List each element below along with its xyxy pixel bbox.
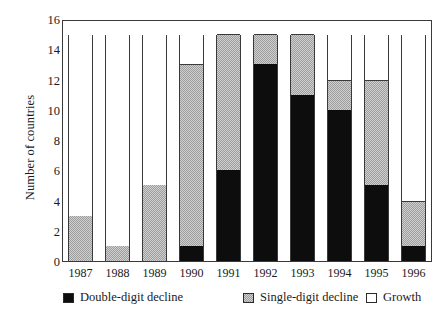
- bar-segment-single-digit-decline-1991: [217, 34, 240, 170]
- bar-segment-double-digit-decline-1991: [217, 170, 240, 261]
- bar-segment-growth-1990: [180, 34, 203, 64]
- x-tick-label-1991: 1991: [210, 266, 247, 280]
- bar-1993: [290, 35, 315, 262]
- bar-1990: [179, 35, 204, 262]
- bar-1995: [364, 35, 389, 262]
- x-tick-label-1989: 1989: [136, 266, 173, 280]
- bar-segment-double-digit-decline-1996: [402, 246, 425, 261]
- bar-segment-single-digit-decline-1988: [106, 246, 129, 261]
- bar-group-1994: [327, 20, 352, 262]
- bar-segment-growth-1995: [365, 34, 388, 79]
- bar-segment-single-digit-decline-1987: [69, 216, 92, 261]
- legend-label-0: Double-digit decline: [80, 290, 183, 305]
- y-tick-label-16: 16: [30, 14, 60, 27]
- bar-segment-growth-1996: [402, 34, 425, 200]
- x-tick-label-1990: 1990: [173, 266, 210, 280]
- double-digit-swatch: [63, 293, 74, 303]
- bar-1994: [327, 35, 352, 262]
- single-digit-swatch: [243, 293, 254, 303]
- bar-group-1988: [105, 20, 130, 262]
- bar-segment-single-digit-decline-1993: [291, 34, 314, 95]
- bars-layer: [62, 20, 432, 262]
- chart-legend: Double-digit declineSingle-digit decline…: [0, 290, 446, 312]
- bar-group-1995: [364, 20, 389, 262]
- bar-segment-double-digit-decline-1990: [180, 246, 203, 261]
- bar-segment-single-digit-decline-1994: [328, 80, 351, 110]
- x-tick-label-1995: 1995: [358, 266, 395, 280]
- bar-segment-single-digit-decline-1992: [254, 34, 277, 64]
- x-tick-label-1993: 1993: [284, 266, 321, 280]
- bar-segment-double-digit-decline-1992: [254, 64, 277, 261]
- bar-group-1989: [142, 20, 167, 262]
- x-axis-tick-labels: 1987198819891990199119921993199419951996: [62, 266, 432, 286]
- bar-1987: [68, 35, 93, 262]
- legend-label-2: Growth: [383, 290, 421, 305]
- bar-group-1990: [179, 20, 204, 262]
- x-tick-label-1992: 1992: [247, 266, 284, 280]
- bar-1988: [105, 35, 130, 262]
- bar-segment-single-digit-decline-1989: [143, 185, 166, 261]
- legend-label-1: Single-digit decline: [260, 290, 358, 305]
- bar-segment-growth-1987: [69, 34, 92, 216]
- x-tick-label-1988: 1988: [99, 266, 136, 280]
- bar-segment-single-digit-decline-1990: [180, 64, 203, 246]
- legend-item-0: Double-digit decline: [63, 290, 183, 305]
- bar-segment-single-digit-decline-1995: [365, 80, 388, 186]
- x-tick-label-1987: 1987: [62, 266, 99, 280]
- legend-item-1: Single-digit decline: [243, 290, 358, 305]
- bar-group-1996: [401, 20, 426, 262]
- bar-segment-double-digit-decline-1994: [328, 110, 351, 261]
- y-tick-label-0: 0: [30, 256, 60, 269]
- y-axis-title: Number of countries: [23, 48, 38, 248]
- bar-group-1987: [68, 20, 93, 262]
- bar-segment-growth-1988: [106, 34, 129, 246]
- bar-segment-double-digit-decline-1995: [365, 185, 388, 261]
- bar-segment-growth-1989: [143, 34, 166, 185]
- legend-item-2: Growth: [366, 290, 421, 305]
- bar-segment-growth-1994: [328, 34, 351, 79]
- bar-group-1991: [216, 20, 241, 262]
- x-tick-label-1994: 1994: [321, 266, 358, 280]
- bar-1991: [216, 35, 241, 262]
- bar-segment-single-digit-decline-1996: [402, 201, 425, 246]
- stacked-bar-chart: Number of countries 0246810121416 198719…: [0, 0, 446, 316]
- bar-group-1993: [290, 20, 315, 262]
- x-tick-label-1996: 1996: [395, 266, 432, 280]
- bar-1996: [401, 35, 426, 262]
- bar-1989: [142, 35, 167, 262]
- bar-segment-double-digit-decline-1993: [291, 95, 314, 261]
- bar-group-1992: [253, 20, 278, 262]
- growth-swatch: [366, 293, 377, 303]
- bar-1992: [253, 35, 278, 262]
